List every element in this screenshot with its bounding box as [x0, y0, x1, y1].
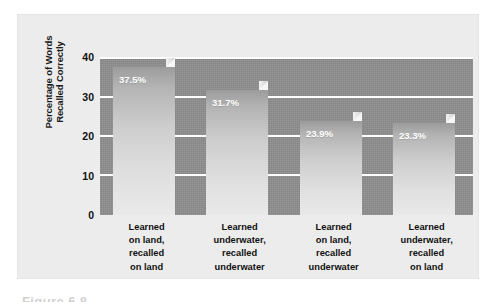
- bar-group: 37.5%: [113, 58, 175, 215]
- x-axis-category-line: Learned: [287, 221, 380, 234]
- x-axis-category-line: Learned: [193, 221, 286, 234]
- x-axis-category-line: on land: [380, 261, 473, 274]
- x-axis-category-line: underwater,: [193, 234, 286, 247]
- bar-value-label: 31.7%: [212, 97, 239, 108]
- x-axis-category-line: on land,: [287, 234, 380, 247]
- x-axis-category-line: on land,: [100, 234, 193, 247]
- x-axis-category-label: Learnedon land,recalledunderwater: [287, 221, 380, 274]
- x-axis-category-label: Learnedunderwater,recalledunderwater: [193, 221, 286, 274]
- x-axis-category-label: Learnedunderwater,recalledon land: [380, 221, 473, 274]
- x-axis-category-line: underwater: [287, 261, 380, 274]
- x-axis-category-line: underwater,: [380, 234, 473, 247]
- figure-card: Percentage of Words Recalled Correctly 4…: [18, 15, 478, 278]
- x-axis-category-line: underwater: [193, 261, 286, 274]
- y-tick-0: 0: [60, 209, 94, 221]
- bar-value-label: 23.9%: [306, 128, 333, 139]
- y-tick-40: 40: [60, 51, 94, 63]
- y-tick-20: 20: [60, 130, 94, 142]
- bar-front-face[interactable]: [113, 67, 175, 215]
- x-axis-category-line: recalled: [380, 247, 473, 260]
- bar-front-face[interactable]: [206, 90, 268, 215]
- bars-layer: 37.5%31.7%23.9%23.3%: [100, 57, 473, 215]
- x-axis-category-labels: Learnedon land,recalledon landLearnedund…: [100, 221, 473, 277]
- x-axis-category-line: Learned: [380, 221, 473, 234]
- bar-group: 23.3%: [393, 114, 455, 215]
- y-tick-10: 10: [60, 170, 94, 182]
- bar-group: 23.9%: [300, 112, 362, 215]
- y-axis-title-line-1: Percentage of Words: [43, 36, 54, 129]
- bar-group: 31.7%: [206, 81, 268, 215]
- x-axis-category-line: on land: [100, 261, 193, 274]
- y-axis-tick-labels: 40 30 20 10 0: [56, 57, 94, 215]
- x-axis-category-line: recalled: [193, 247, 286, 260]
- x-axis-category-line: Learned: [100, 221, 193, 234]
- x-axis-category-line: recalled: [100, 247, 193, 260]
- figure-caption: Figure 6.8: [22, 294, 87, 302]
- x-axis-category-line: recalled: [287, 247, 380, 260]
- bar-value-label: 23.3%: [399, 130, 426, 141]
- bar-value-label: 37.5%: [119, 74, 146, 85]
- plot-area: 37.5%31.7%23.9%23.3%: [100, 57, 473, 215]
- x-axis-category-label: Learnedon land,recalledon land: [100, 221, 193, 274]
- y-tick-30: 30: [60, 91, 94, 103]
